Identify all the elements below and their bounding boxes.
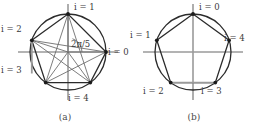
vertex-label-a-2: i = 2	[1, 24, 22, 34]
vertex-dot-1	[66, 12, 70, 16]
radius-to-vertex-4	[68, 52, 90, 83]
radius-to-vertex-3	[46, 52, 68, 83]
vertex-label-a-0: i = 0	[108, 47, 129, 57]
caption-panel-a: (a)	[0, 112, 130, 122]
vertex-label-b-2: i = 2	[143, 86, 164, 96]
panel-b: i = 0 i = 1 i = 2 i = 3 i = 4 (b)	[129, 0, 259, 133]
vertex-label-a-1: i = 1	[74, 2, 95, 12]
vertex-dot-1	[155, 38, 159, 42]
vertex-label-a-4: i = 4	[68, 93, 89, 103]
vertex-label-b-3: i = 3	[201, 86, 222, 96]
vertex-label-a-3: i = 3	[1, 65, 22, 75]
vertex-dot-2	[30, 38, 34, 42]
vertex-dot-4	[88, 81, 92, 85]
caption-panel-b: (b)	[129, 112, 259, 122]
figure-container: i = 0 i = 1 i = 2 i = 3 i = 4 2π/5 (a)	[0, 0, 259, 133]
vertex-dot-3	[44, 81, 48, 85]
vertex-label-b-0: i = 0	[199, 2, 220, 12]
chord-1-3	[46, 14, 68, 83]
vertex-label-b-1: i = 1	[130, 30, 151, 40]
angle-label-2pi-over-5: 2π/5	[71, 39, 90, 49]
vertex-label-b-4: i = 4	[224, 33, 245, 43]
vertex-dot-0	[191, 12, 195, 16]
panel-a: i = 0 i = 1 i = 2 i = 3 i = 4 2π/5 (a)	[0, 0, 130, 133]
radius-to-vertex-2	[32, 40, 68, 52]
vertex-dot-2	[169, 81, 173, 85]
chord-0-2	[32, 40, 106, 52]
vertex-dot-3	[213, 81, 217, 85]
